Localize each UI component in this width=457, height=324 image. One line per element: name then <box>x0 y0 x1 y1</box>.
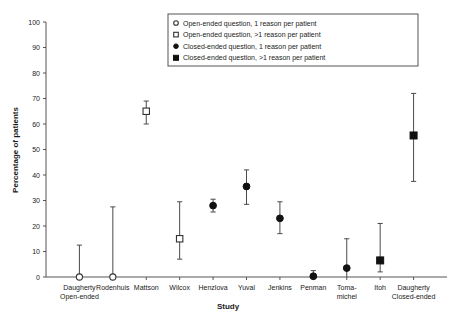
legend-marker-open-circle <box>174 21 179 26</box>
y-tick-label: 100 <box>28 19 40 26</box>
x-tick-label: Daugherty <box>397 284 430 292</box>
marker-open-square <box>176 236 182 242</box>
marker-filled-square <box>410 132 417 139</box>
y-tick-label: 70 <box>32 95 40 102</box>
x-tick-label: Wilcox <box>169 284 190 291</box>
y-tick-label: 20 <box>32 223 40 230</box>
chart-container: 0102030405060708090100 DaughertyOpen-end… <box>0 0 457 324</box>
x-tick-label: Toma- <box>337 284 357 291</box>
x-tick-label: Itoh <box>374 284 386 291</box>
legend-item: Open-ended question, >1 reason per patie… <box>174 31 321 39</box>
legend-marker-open-square <box>174 32 179 37</box>
legend-item: Closed-ended question, >1 reason per pat… <box>174 54 326 62</box>
legend-item: Closed-ended question, 1 reason per pati… <box>174 43 322 51</box>
marker-open-circle <box>110 274 116 280</box>
legend-marker-filled-square <box>174 55 179 60</box>
marker-open-square <box>143 108 149 114</box>
legend-label: Closed-ended question, >1 reason per pat… <box>183 54 325 62</box>
y-tick-label: 50 <box>32 146 40 153</box>
y-tick-label: 0 <box>36 274 40 281</box>
y-tick-label: 40 <box>32 172 40 179</box>
y-axis-title: Percentage of patients <box>11 107 20 193</box>
marker-filled-square <box>377 257 384 264</box>
y-tick-label: 80 <box>32 70 40 77</box>
x-tick-label: Open-ended <box>60 293 99 301</box>
x-tick-label: Penman <box>300 284 326 291</box>
y-tick-label: 90 <box>32 44 40 51</box>
marker-filled-circle <box>277 215 284 222</box>
marker-filled-circle <box>210 202 217 209</box>
legend-marker-filled-circle <box>174 44 179 49</box>
x-tick-label: michel <box>337 293 358 300</box>
x-tick-label: Jenkins <box>268 284 292 291</box>
x-tick-label: Closed-ended <box>392 293 436 300</box>
marker-filled-circle <box>243 183 250 190</box>
x-tick-label: Daugherty <box>63 284 96 292</box>
marker-filled-circle <box>343 265 350 272</box>
legend-label: Open-ended question, 1 reason per patien… <box>183 20 317 28</box>
marker-open-circle <box>76 274 82 280</box>
error-bar-chart: 0102030405060708090100 DaughertyOpen-end… <box>0 0 457 324</box>
x-axis-title: Study <box>217 302 240 311</box>
x-tick-label: Yuval <box>238 284 256 291</box>
y-tick-label: 10 <box>32 248 40 255</box>
x-tick-label: Mattson <box>134 284 159 291</box>
x-tick-label: Henzlova <box>198 284 227 291</box>
legend-item: Open-ended question, 1 reason per patien… <box>174 20 317 28</box>
y-tick-label: 60 <box>32 121 40 128</box>
legend-label: Open-ended question, >1 reason per patie… <box>183 31 321 39</box>
chart-legend: Open-ended question, 1 reason per patien… <box>168 14 418 66</box>
marker-filled-circle <box>310 273 317 280</box>
x-tick-label: Rodenhuis <box>96 284 130 291</box>
y-tick-label: 30 <box>32 197 40 204</box>
legend-label: Closed-ended question, 1 reason per pati… <box>183 43 321 51</box>
